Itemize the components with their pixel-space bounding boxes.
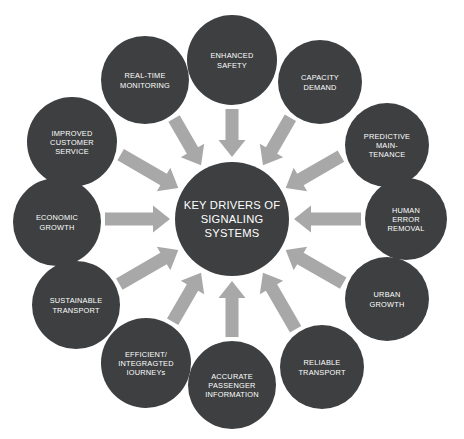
arrow-to-hub-enhanced-safety: [219, 109, 246, 157]
node-label-line: URBAN: [374, 290, 401, 299]
node-label-line: INTEGRAGTED: [118, 359, 174, 368]
node-capacity-demand[interactable]: CAPACITYDEMAND: [278, 40, 362, 124]
node-label-line: REAL-TIME: [124, 71, 165, 80]
arrow-to-hub-reliable-transport: [251, 266, 307, 336]
node-improved-customer-service[interactable]: IMPROVEDCUSTOMERSERVICE: [27, 97, 117, 187]
node-label-line: SAFETY: [217, 61, 247, 70]
node-label-line: IOURNEYs: [127, 368, 166, 377]
node-label-line: SERVICE: [55, 147, 89, 156]
node-efficient-integrated-journeys[interactable]: EFFICIENT/INTEGRAGTEDIOURNEYs: [101, 318, 191, 408]
node-label-line: TRANSPORT: [298, 368, 346, 377]
node-accurate-passenger-information[interactable]: ACCURATEPASSENGERINFORMATION: [188, 341, 276, 429]
hub-key-drivers-hub[interactable]: KEY DRIVERS OFSIGNALINGSYSTEMS: [175, 162, 289, 276]
node-label-line: SUSTAINABLE: [50, 296, 103, 305]
node-label-line: ERROR: [392, 215, 420, 224]
node-label-line: TENANCE: [369, 150, 406, 159]
node-label-line: ECONOMIC: [36, 213, 79, 222]
arrow-to-hub-human-error-removal: [294, 206, 361, 233]
node-sustainable-transport[interactable]: SUSTAINABLETRANSPORT: [32, 261, 120, 349]
node-enhanced-safety[interactable]: ENHANCEDSAFETY: [187, 15, 277, 105]
node-label-line: DEMAND: [303, 83, 336, 92]
node-label-line: TRANSPORT: [52, 306, 100, 315]
node-label-line: HUMAN: [392, 206, 420, 215]
arrow-to-hub-efficient-integrated-journeys: [161, 266, 213, 329]
node-predictive-maintenance[interactable]: PREDICTIVEMAIN-TENANCE: [345, 103, 429, 187]
node-label-line: PASSENGER: [208, 381, 255, 390]
node-label-line: REMOVAL: [388, 224, 425, 233]
arrow-to-hub-urban-growth: [279, 238, 350, 295]
node-label-line: EFFICIENT/: [125, 350, 168, 359]
arrow-to-hub-economic-growth: [105, 206, 170, 233]
arrow-to-hub-improved-customer-service: [114, 143, 185, 200]
node-label-line: INFORMATION: [205, 390, 258, 399]
node-real-time-monitoring[interactable]: REAL-TIMEMONITORING: [101, 36, 189, 124]
key-drivers-diagram: ENHANCEDSAFETYCAPACITYDEMANDPREDICTIVEMA…: [0, 0, 464, 439]
node-label-line: PREDICTIVE: [364, 132, 410, 141]
arrow-to-hub-accurate-passenger-information: [219, 281, 246, 337]
node-label-line: ACCURATE: [211, 372, 253, 381]
node-label-line: MONITORING: [120, 81, 170, 90]
arrow-to-hub-predictive-maintenance: [279, 144, 348, 199]
node-reliable-transport[interactable]: RELIABLETRANSPORT: [280, 325, 364, 409]
node-label-line: MAIN-: [376, 141, 398, 150]
node-label-line: GROWTH: [40, 223, 75, 232]
arrow-to-hub-capacity-demand: [251, 111, 302, 172]
arrow-to-hub-sustainable-transport: [113, 238, 186, 295]
node-human-error-removal[interactable]: HUMANERRORREMOVAL: [365, 178, 447, 260]
node-urban-growth[interactable]: URBANGROWTH: [345, 257, 429, 341]
hub-label-line: KEY DRIVERS OF: [184, 199, 280, 211]
node-label-line: RELIABLE: [304, 358, 341, 367]
node-label-line: IMPROVED: [51, 129, 92, 138]
hub-label-line: SIGNALING: [201, 213, 264, 225]
node-label-line: GROWTH: [370, 300, 405, 309]
arrow-to-hub-real-time-monitoring: [162, 112, 212, 172]
node-economic-growth[interactable]: ECONOMICGROWTH: [13, 178, 101, 266]
hub-label-line: SYSTEMS: [205, 227, 260, 239]
hub-layer: KEY DRIVERS OFSIGNALINGSYSTEMS: [175, 162, 289, 276]
node-label-line: CUSTOMER: [50, 138, 94, 147]
node-label-line: CAPACITY: [301, 73, 339, 82]
node-label-line: ENHANCED: [210, 51, 253, 60]
diagram-canvas: ENHANCEDSAFETYCAPACITYDEMANDPREDICTIVEMA…: [0, 0, 464, 439]
